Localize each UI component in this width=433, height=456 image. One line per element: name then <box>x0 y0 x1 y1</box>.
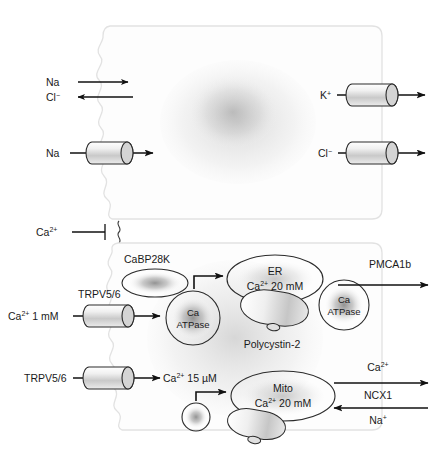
ca-atpase-left-line2: ATPase <box>176 319 209 330</box>
polycystin2-label: Polycystin-2 <box>244 338 301 350</box>
pmca1b-label: PMCA1b <box>369 258 411 270</box>
mito-line1: Mito <box>273 382 293 394</box>
channel-cylinder-icon <box>346 142 398 164</box>
ca-atpase-left-fill <box>172 297 214 339</box>
upper-cell-group: Na Cl− Na K+ <box>46 26 425 219</box>
calcium-inhibition-group: Ca2+ <box>36 221 120 243</box>
membrane-squiggle <box>118 221 120 243</box>
channel-cylinder-icon <box>83 305 134 327</box>
ca-1mm-label: Ca2+ 1 mM <box>8 310 59 322</box>
inhibition-ca: Ca <box>36 226 50 238</box>
mito-line2: Ca2+ 20 mM <box>255 397 311 409</box>
ca-atpase-right-group: Ca ATPase <box>319 280 369 330</box>
lower-cell-group: CaBP28K TRPV5/6 Ca2+ 1 mM C <box>8 243 428 445</box>
na-transport-label: Na <box>46 76 60 88</box>
cabp28k-fill <box>129 272 181 294</box>
cl-transport-label: Cl− <box>46 91 60 103</box>
ca-atpase-left-group: Ca ATPase <box>166 291 220 345</box>
ncx1-ca-label: Ca2+ <box>367 361 388 373</box>
er-line1: ER <box>268 265 283 277</box>
ncx1-na-label: Na+ <box>369 414 387 426</box>
ca-15um-label: Ca2+ 15 µM <box>163 372 217 384</box>
ca-atpase-right-line2: ATPase <box>327 306 360 317</box>
na-channel-label: Na <box>46 147 60 159</box>
figure-canvas: Na Cl− Na K+ <box>0 0 433 456</box>
trpv56-lower-channel-label: TRPV5/6 <box>24 372 67 384</box>
ca-atpase-right-line1: Ca <box>338 294 351 305</box>
cl-transport-label-text: Cl <box>46 91 56 103</box>
ca-atpase-left-line1: Ca <box>187 307 200 318</box>
cabp28k-label: CaBP28K <box>124 253 170 265</box>
er-line2: Ca2+ 20 mM <box>247 280 303 292</box>
upper-cell-nucleus-shade <box>189 76 277 148</box>
channel-cylinder-icon <box>86 142 133 164</box>
cell-transport-diagram: Na Cl− Na K+ <box>0 0 433 456</box>
inhibition-label: Ca2+ <box>36 226 57 238</box>
ncx1-name-label: NCX1 <box>364 389 392 401</box>
trpv56-upper-channel-label: TRPV5/6 <box>78 288 121 300</box>
channel-cylinder-icon <box>346 84 398 106</box>
channel-cylinder-icon <box>83 367 134 389</box>
vesicle-fill <box>185 406 207 428</box>
ca-atpase-right-fill <box>325 286 363 324</box>
